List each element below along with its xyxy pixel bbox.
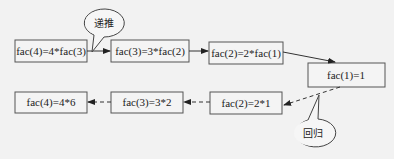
- node-label: fac(1)=1: [327, 69, 365, 82]
- node-fac3-forward: fac(3)=3*fac(2): [111, 40, 189, 62]
- callout-label: 递推: [94, 17, 114, 29]
- node-label: fac(4)=4*fac(3): [16, 45, 86, 58]
- node-fac4-backward: fac(4)=4*6: [15, 92, 87, 113]
- node-fac2-forward: fac(2)=2*fac(1): [209, 42, 283, 64]
- arrow-return-1: [284, 87, 340, 105]
- node-label: fac(2)=2*fac(1): [211, 47, 281, 60]
- node-fac2-backward: fac(2)=2*1: [210, 92, 282, 114]
- node-fac4-forward: fac(4)=4*fac(3): [15, 40, 87, 62]
- callout-return: 回归: [294, 95, 336, 147]
- node-label: fac(3)=3*fac(2): [115, 45, 185, 58]
- callout-label: 回归: [303, 127, 323, 139]
- node-label: fac(4)=4*6: [27, 96, 76, 109]
- node-label: fac(3)=3*2: [123, 96, 172, 109]
- arrow-forward-3: [283, 52, 335, 62]
- node-fac1-base: fac(1)=1: [308, 63, 385, 87]
- node-fac3-backward: fac(3)=3*2: [111, 92, 183, 113]
- recursion-diagram: fac(4)=4*fac(3) fac(3)=3*fac(2) fac(2)=2…: [0, 0, 394, 159]
- node-label: fac(2)=2*1: [222, 97, 271, 110]
